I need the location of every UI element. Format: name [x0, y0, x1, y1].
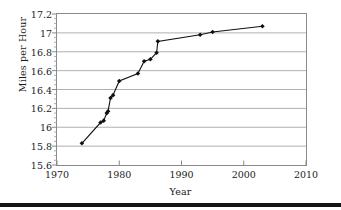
x-tick-label: 2010: [294, 169, 318, 180]
y-tick-label: 17: [40, 27, 52, 38]
y-tick-label: 15.8: [31, 141, 52, 152]
data-series-line: [57, 14, 306, 165]
x-tick-label: 1980: [107, 169, 131, 180]
x-tick-label: 1970: [45, 169, 69, 180]
y-tick-label: 16.2: [31, 103, 52, 114]
y-tick-label: 16.6: [31, 65, 52, 76]
x-axis-title: Year: [56, 186, 305, 197]
y-tick-label: 16.8: [31, 46, 52, 57]
y-axis-title: Miles per Hour: [17, 0, 28, 120]
page-edge-band: [0, 203, 341, 207]
chart-figure: Miles per Hour 15.615.81616.216.416.616.…: [0, 0, 341, 210]
plot-area: 15.615.81616.216.416.616.81717.2 1970198…: [56, 13, 307, 166]
y-tick-label: 16: [40, 122, 52, 133]
x-tick-label: 1990: [169, 169, 193, 180]
x-tick-label: 2000: [232, 169, 256, 180]
y-tick-label: 17.2: [31, 9, 52, 20]
y-tick-label: 16.4: [31, 84, 52, 95]
